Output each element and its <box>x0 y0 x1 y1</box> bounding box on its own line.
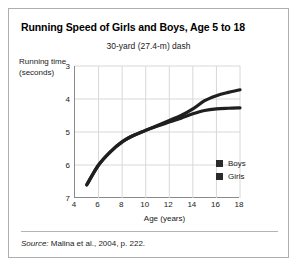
chart-area: Running time(seconds) 34567 468101214161… <box>9 9 290 219</box>
y-tick-label: 3 <box>66 62 70 71</box>
x-tick-label: 14 <box>187 200 196 209</box>
x-tick-label: 6 <box>95 200 99 209</box>
plot-area <box>74 66 239 198</box>
divider <box>21 231 278 232</box>
legend-swatch-girls <box>216 173 223 180</box>
y-tick-label: 5 <box>66 128 70 137</box>
y-axis-ticks: 34567 <box>53 66 70 198</box>
x-tick-label: 4 <box>72 200 76 209</box>
legend-item: Girls <box>216 172 246 181</box>
legend-label-girls: Girls <box>228 172 244 181</box>
chart-legend: Boys Girls <box>216 159 246 185</box>
x-axis-ticks: 4681012141618 <box>74 200 239 212</box>
x-axis-label: Age (years) <box>9 214 290 223</box>
y-tick-label: 6 <box>66 161 70 170</box>
source-prefix: Source: <box>21 239 49 248</box>
x-tick-label: 12 <box>164 200 173 209</box>
legend-swatch-boys <box>216 160 223 167</box>
legend-item: Boys <box>216 159 246 168</box>
legend-label-boys: Boys <box>228 159 246 168</box>
x-tick-label: 10 <box>140 200 149 209</box>
source-text: Malina et al., 2004, p. 222. <box>49 239 146 248</box>
x-tick-label: 18 <box>235 200 244 209</box>
x-tick-label: 8 <box>119 200 123 209</box>
y-tick-label: 7 <box>66 194 70 203</box>
source-note: Source: Malina et al., 2004, p. 222. <box>21 239 145 248</box>
x-tick-label: 16 <box>211 200 220 209</box>
y-tick-label: 4 <box>66 95 70 104</box>
figure-container: Running Speed of Girls and Boys, Age 5 t… <box>8 8 289 258</box>
